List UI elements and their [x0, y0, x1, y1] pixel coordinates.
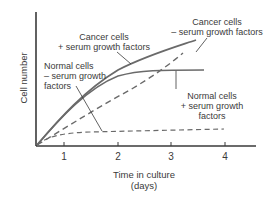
series-cancer-plus-serum [37, 40, 196, 145]
annotation-cancer-minus-line1: Cancer cells [192, 17, 242, 27]
y-axis-title: Cell number [18, 52, 29, 103]
x-tick-label-4: 4 [222, 151, 228, 162]
annotation-normal-minus-line2: – serum growth [44, 71, 106, 81]
annotation-normal-plus-line3: factors [198, 111, 226, 121]
annotation-normal-minus-line3: factors [44, 81, 72, 91]
annotation-normal-minus-line1: Normal cells [44, 61, 94, 71]
annotation-normal-plus-line2: + serum growth [181, 101, 243, 111]
leader-cancer-plus [117, 52, 131, 64]
annotation-normal-plus-line1: Normal cells [187, 91, 237, 101]
annotation-cancer-plus-line1: Cancer cells [79, 32, 129, 42]
annotation-cancer-minus-line2: – serum growth factors [171, 27, 263, 37]
x-axis-title-line2: (days) [131, 180, 157, 191]
series-normal-minus-serum [37, 129, 224, 145]
x-axis-title-line1: Time in culture [113, 169, 175, 180]
x-tick-label-1: 1 [61, 151, 67, 162]
x-tick-label-2: 2 [115, 151, 121, 162]
chart-svg: 1 2 3 4 Time in culture (days) Cell numb… [0, 0, 270, 199]
leader-cancer-minus [196, 38, 207, 52]
x-tick-label-3: 3 [168, 151, 174, 162]
annotation-cancer-plus-line2: + serum growth factors [58, 42, 150, 52]
